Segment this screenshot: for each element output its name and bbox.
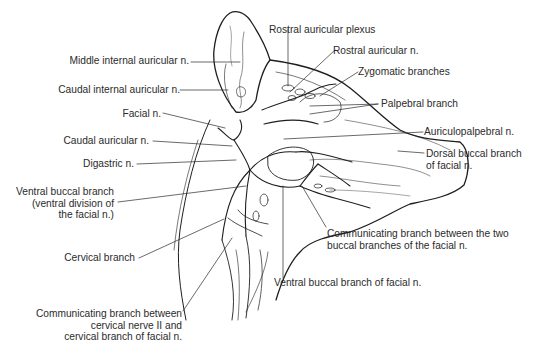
label-palpebral-branch: Palpebral branch: [381, 98, 458, 110]
label-rostral-auricular-n: Rostral auricular n.: [333, 45, 419, 57]
label-middle-internal-auricular-n: Middle internal auricular n.: [70, 55, 189, 67]
label-caudal-auricular-n: Caudal auricular n.: [63, 135, 149, 147]
label-facial-n: Facial n.: [122, 108, 161, 120]
anatomy-figure: Rostral auricular plexus Middle internal…: [0, 0, 534, 358]
label-caudal-internal-auricular-n: Caudal internal auricular n.: [58, 84, 180, 96]
label-cervical-branch: Cervical branch: [64, 252, 135, 264]
label-digastric-n: Digastric n.: [83, 158, 134, 170]
cheek-muscle: [268, 147, 430, 196]
label-communicating-branch-cervical: Communicating branch between cervical ne…: [36, 308, 182, 343]
label-ventral-buccal-branch-division: Ventral buccal branch (ventral division …: [16, 186, 114, 221]
cat-head-illustration: [0, 0, 534, 358]
label-rostral-auricular-plexus: Rostral auricular plexus: [269, 24, 375, 36]
label-ventral-buccal-branch-facial: Ventral buccal branch of facial n.: [274, 277, 421, 289]
facial-nerve-branches: [218, 84, 370, 240]
label-auriculopalpebral-n: Auriculopalpebral n.: [424, 126, 514, 138]
label-communicating-branch-buccal: Communicating branch between the two buc…: [327, 228, 509, 251]
label-dorsal-buccal-branch: Dorsal buccal branch of facial n.: [426, 148, 522, 171]
label-zygomatic-branches: Zygomatic branches: [358, 66, 450, 78]
